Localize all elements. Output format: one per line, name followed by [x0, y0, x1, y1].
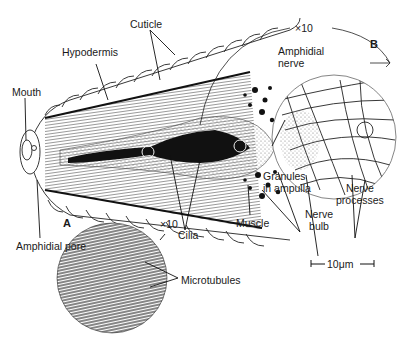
label-amphidial-nerve-line1: Amphidial [278, 45, 324, 57]
label-nerve-bulb-line2: bulb [309, 220, 329, 232]
label-microtubules: Microtubules [181, 274, 241, 286]
scale-bar-label: 10μm [327, 258, 353, 270]
amphid-diagram: Cuticle Hypodermis Mouth Amphidial pore … [0, 0, 401, 338]
inset-a-letter: A [63, 217, 71, 229]
label-nerve-processes: Nerveprocesses [336, 182, 384, 206]
label-amphidial-nerve: Amphidialnerve [278, 45, 324, 69]
label-cilia: Cilia [178, 229, 198, 241]
label-amphidial-nerve-line2: nerve [278, 57, 304, 69]
label-granules: Granulesin ampulla [263, 170, 311, 194]
label-mouth: Mouth [12, 86, 41, 98]
label-nerve-processes-line1: Nerve [346, 182, 374, 194]
inset-a-magnification: ×10 [160, 218, 178, 230]
diagram-drawing [0, 0, 401, 338]
label-amphidial-pore: Amphidial pore [16, 240, 86, 252]
label-nerve-processes-line2: processes [336, 194, 384, 206]
inset-b-magnification: ×10 [295, 22, 313, 34]
label-nerve-bulb: Nervebulb [305, 208, 333, 232]
inset-b-letter: B [370, 38, 378, 50]
mouth-head [20, 130, 40, 174]
label-nerve-bulb-line1: Nerve [305, 208, 333, 220]
label-hypodermis: Hypodermis [62, 46, 118, 58]
label-granules-line2: in ampulla [263, 182, 311, 194]
label-granules-line1: Granules [263, 170, 306, 182]
label-muscle: Muscle [236, 217, 269, 229]
label-cuticle: Cuticle [130, 18, 162, 30]
